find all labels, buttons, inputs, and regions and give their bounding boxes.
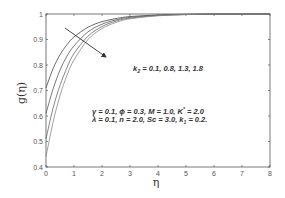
- data-series: [46, 14, 270, 157]
- x-tick-label: 5: [184, 170, 188, 177]
- y-tick-label: 1: [39, 11, 43, 18]
- x-tick-label: 1: [72, 170, 76, 177]
- axis-ticks: 0123456780.40.50.60.70.80.91: [33, 11, 272, 178]
- params-line-2: λ = 0.1, n = 2.0, Sc = 3.0, k1 = 0.2.: [91, 115, 207, 125]
- x-tick-label: 6: [212, 170, 216, 177]
- line-chart: 0123456780.40.50.60.70.80.91 k2 = 0.1, 0…: [0, 0, 285, 198]
- y-tick-label: 0.8: [33, 62, 43, 69]
- y-tick-label: 0.9: [33, 36, 43, 43]
- k2-annotation: k2 = 0.1, 0.8, 1.3, 1.8: [133, 64, 204, 74]
- y-tick-label: 0.7: [33, 87, 43, 94]
- trend-arrow-icon: [65, 28, 106, 57]
- y-tick-label: 0.5: [33, 138, 43, 145]
- x-tick-label: 2: [100, 170, 104, 177]
- x-axis-label: η: [153, 176, 160, 189]
- series-line: [46, 14, 270, 157]
- x-tick-label: 3: [128, 170, 132, 177]
- x-tick-label: 7: [240, 170, 244, 177]
- y-tick-label: 0.6: [33, 113, 43, 120]
- y-axis-label: g(η): [15, 82, 28, 104]
- x-tick-label: 0: [44, 170, 48, 177]
- axes-box: [46, 14, 270, 167]
- y-tick-label: 0.4: [33, 164, 43, 171]
- x-tick-label: 8: [268, 170, 272, 177]
- plot-area: [46, 14, 270, 167]
